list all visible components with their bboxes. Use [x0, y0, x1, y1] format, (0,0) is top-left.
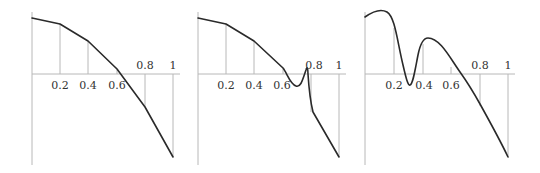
- tick-label: 1: [170, 59, 177, 72]
- tick-label: 0.8: [136, 59, 154, 72]
- panel-2: 0.2 0.4 0.6 0.8 1: [198, 12, 346, 165]
- tick-label: 0.4: [415, 79, 433, 92]
- tick-label: 0.6: [442, 79, 460, 92]
- tick-label: 0.6: [108, 79, 126, 92]
- tick-label: 0.2: [385, 79, 403, 92]
- tick-label: 0.8: [305, 59, 323, 72]
- tick-label: 1: [505, 59, 512, 72]
- panel-3: 0.2 0.4 0.6 0.8 1: [365, 10, 515, 165]
- tick-label: 0.2: [217, 79, 235, 92]
- tick-label: 0.8: [471, 59, 489, 72]
- tick-label: 0.2: [51, 79, 69, 92]
- tick-label: 1: [336, 59, 343, 72]
- figure: 0.2 0.4 0.6 0.8 1 0.2 0.4 0.6 0.8 1 0.2 …: [0, 0, 540, 173]
- tick-label: 0.4: [79, 79, 97, 92]
- tick-label: 0.6: [273, 79, 291, 92]
- tick-label: 0.4: [245, 79, 263, 92]
- panel-1: 0.2 0.4 0.6 0.8 1: [32, 12, 180, 165]
